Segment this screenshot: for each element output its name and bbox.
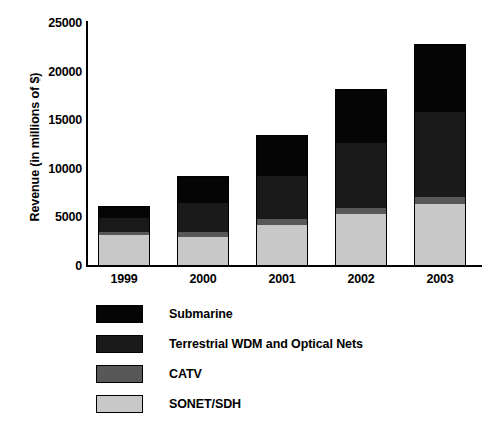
bars-layer bbox=[88, 23, 480, 266]
legend-swatch bbox=[96, 305, 143, 323]
y-axis-tick-label: 15000 bbox=[12, 113, 82, 127]
bar-segment[interactable] bbox=[177, 176, 229, 204]
legend-label: Submarine bbox=[169, 307, 233, 321]
y-axis-tick-label: 20000 bbox=[12, 65, 82, 79]
bar-stack[interactable] bbox=[256, 135, 308, 266]
legend-item[interactable]: Submarine bbox=[96, 300, 476, 327]
x-axis-tick-label: 2002 bbox=[321, 272, 401, 286]
bar-segment[interactable] bbox=[256, 135, 308, 176]
legend-item[interactable]: SONET/SDH bbox=[96, 390, 476, 417]
bar-segment[interactable] bbox=[177, 237, 229, 266]
bar-stack[interactable] bbox=[414, 44, 466, 266]
y-axis-tick-label: 10000 bbox=[12, 162, 82, 176]
legend-swatch bbox=[96, 335, 143, 353]
bar-segment[interactable] bbox=[414, 204, 466, 266]
bar-segment[interactable] bbox=[256, 176, 308, 220]
y-axis-tick-label: 0 bbox=[12, 259, 82, 273]
legend-swatch bbox=[96, 395, 143, 413]
bar-stack[interactable] bbox=[177, 176, 229, 266]
x-axis-tick-label: 2001 bbox=[242, 272, 322, 286]
legend-swatch bbox=[96, 365, 143, 383]
bar-segment[interactable] bbox=[98, 206, 150, 218]
bar-segment[interactable] bbox=[335, 143, 387, 208]
x-axis-tick-label: 1999 bbox=[84, 272, 164, 286]
chart-legend: SubmarineTerrestrial WDM and Optical Net… bbox=[96, 300, 476, 420]
bar-segment[interactable] bbox=[256, 225, 308, 266]
bar-stack[interactable] bbox=[98, 206, 150, 266]
y-axis-tick-labels: 0500010000150002000025000 bbox=[8, 23, 82, 266]
bar-segment[interactable] bbox=[414, 197, 466, 204]
x-axis-tick-label: 2000 bbox=[163, 272, 243, 286]
legend-label: SONET/SDH bbox=[169, 397, 241, 411]
bar-segment[interactable] bbox=[335, 214, 387, 266]
bar-segment[interactable] bbox=[177, 203, 229, 232]
y-axis-tick-label: 5000 bbox=[12, 210, 82, 224]
legend-item[interactable]: Terrestrial WDM and Optical Nets bbox=[96, 330, 476, 357]
bar-segment[interactable] bbox=[414, 44, 466, 112]
legend-label: Terrestrial WDM and Optical Nets bbox=[169, 337, 363, 351]
legend-label: CATV bbox=[169, 367, 202, 381]
x-axis-tick-label: 2003 bbox=[400, 272, 480, 286]
revenue-stacked-bar-chart: Revenue (in millions of $) 0500010000150… bbox=[0, 0, 500, 427]
y-axis-tick-label: 25000 bbox=[12, 16, 82, 30]
legend-item[interactable]: CATV bbox=[96, 360, 476, 387]
bar-segment[interactable] bbox=[414, 112, 466, 197]
bar-segment[interactable] bbox=[98, 218, 150, 233]
bar-segment[interactable] bbox=[98, 235, 150, 266]
bar-stack[interactable] bbox=[335, 89, 387, 266]
bar-segment[interactable] bbox=[335, 89, 387, 143]
